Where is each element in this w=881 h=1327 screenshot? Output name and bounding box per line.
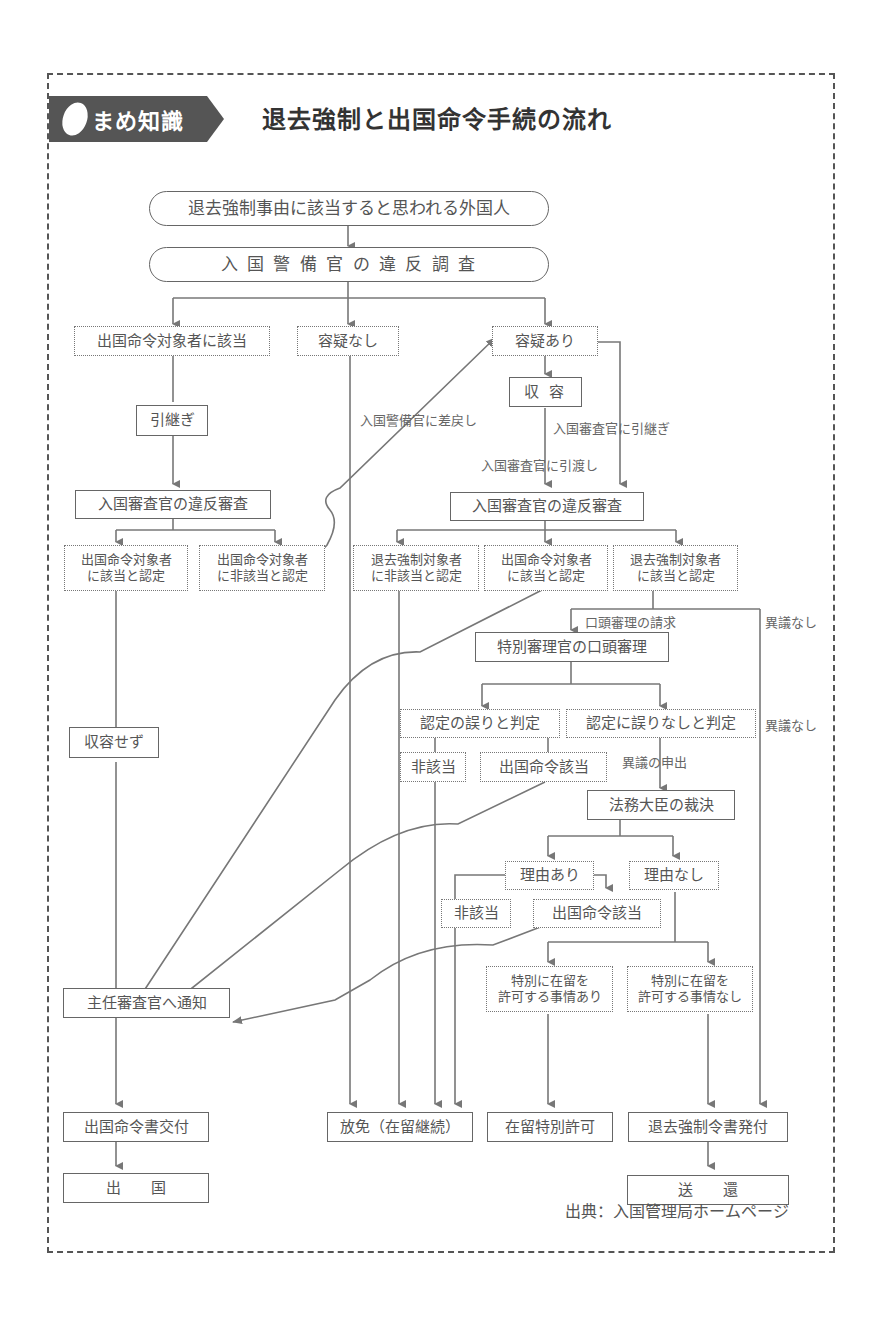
label-transfer-to-examiner: 入国審査官に引継ぎ xyxy=(553,418,670,437)
node-start: 退去強制事由に該当すると思われる外国人 xyxy=(149,191,549,226)
node-special-permission-no: 特別に在留を許可する事情なし xyxy=(627,966,753,1012)
node-decision-not-applicable: 非該当 xyxy=(441,899,511,928)
label-filing-objection: 異議の申出 xyxy=(622,752,687,771)
node-departure: 出 国 xyxy=(63,1173,209,1203)
node-special-permission-yes: 特別に在留を許可する事情あり xyxy=(486,966,613,1012)
node-oral-hearing: 特別審理官の口頭審理 xyxy=(475,632,669,662)
node-hearing-do-applicable: 出国命令該当 xyxy=(480,752,607,782)
node-handover: 引継ぎ xyxy=(136,405,208,436)
label-return-to-guard: 入国警備官に差戻し xyxy=(360,410,477,429)
node-decision-do-applicable: 出国命令該当 xyxy=(533,899,661,928)
node-suspicion: 容疑あり xyxy=(492,326,598,356)
node-no-suspicion: 容疑なし xyxy=(297,326,399,356)
node-left-examination: 入国審査官の違反審査 xyxy=(75,490,271,519)
node-do-applicable: 出国命令対象者に該当と認定 xyxy=(484,545,608,591)
node-right-examination: 入国審査官の違反審査 xyxy=(450,492,644,521)
node-hearing-not-applicable: 非該当 xyxy=(400,752,466,782)
node-left-do-not-applicable: 出国命令対象者に非該当と認定 xyxy=(199,545,325,591)
label-no-objection-1: 異議なし xyxy=(765,612,817,631)
node-release: 放免（在留継続） xyxy=(327,1112,473,1142)
label-request-oral-hearing: 口頭審理の請求 xyxy=(585,612,676,631)
label-handover-to-examiner: 入国審査官に引渡し xyxy=(481,455,598,474)
node-issue-deportation-order: 退去強制令書発付 xyxy=(628,1112,788,1142)
source-citation: 出典：入国管理局ホームページ xyxy=(565,1198,789,1222)
node-reason-exists: 理由あり xyxy=(505,861,594,890)
node-minister-decision: 法務大臣の裁決 xyxy=(587,790,735,820)
node-departure-order-applicable: 出国命令対象者に該当 xyxy=(74,326,270,356)
node-left-do-applicable: 出国命令対象者に該当と認定 xyxy=(64,545,188,591)
node-judged-no-error: 認定に誤りなしと判定 xyxy=(566,709,756,738)
node-detention: 収 容 xyxy=(509,377,582,407)
node-dep-applicable: 退去強制対象者に該当と認定 xyxy=(613,545,738,591)
node-notify-chief: 主任審査官へ通知 xyxy=(63,988,230,1018)
node-special-permission: 在留特別許可 xyxy=(487,1112,613,1142)
node-issue-departure-order: 出国命令書交付 xyxy=(63,1112,209,1142)
node-dep-not-applicable: 退去強制対象者に非該当と認定 xyxy=(353,545,479,591)
node-investigation: 入 国 警 備 官 の 違 反 調 査 xyxy=(149,247,549,282)
node-not-detained: 収容せず xyxy=(69,727,159,758)
node-judged-error: 認定の誤りと判定 xyxy=(400,709,560,738)
node-no-reason: 理由なし xyxy=(629,861,719,890)
label-no-objection-2: 異議なし xyxy=(765,715,817,734)
